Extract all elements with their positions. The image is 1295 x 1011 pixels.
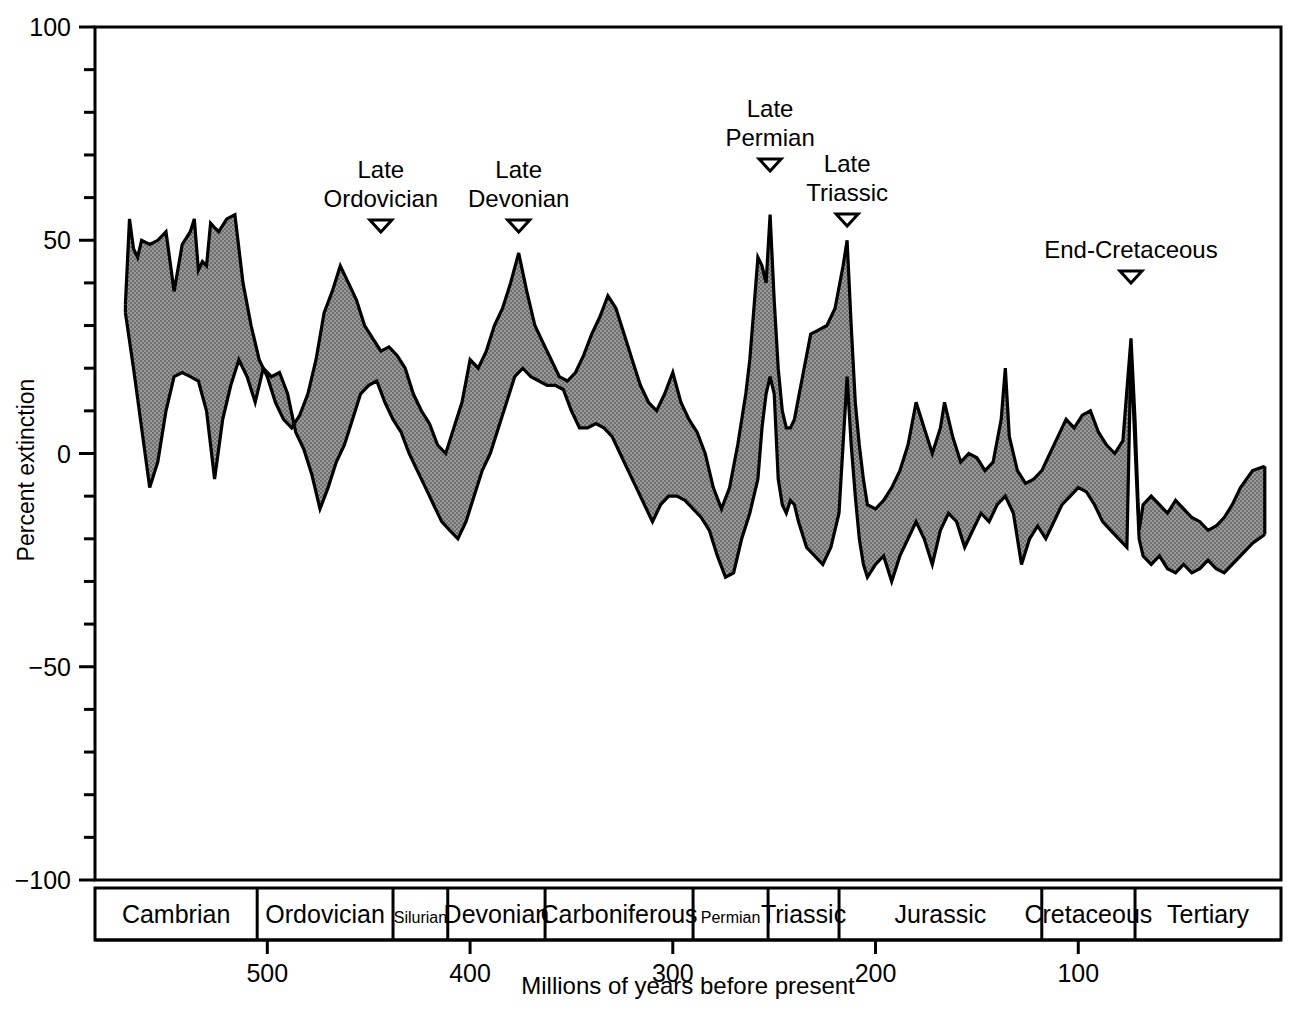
event-label: Ordovician — [323, 185, 438, 212]
period-label: Jurassic — [895, 900, 987, 928]
extinction-chart-figure: −100−50050100 Percent extinction LateOrd… — [0, 0, 1295, 1011]
event-label: End-Cretaceous — [1044, 236, 1217, 263]
event-label: Late — [357, 156, 404, 183]
period-label: Cretaceous — [1024, 900, 1152, 928]
event-marker-down-triangle-icon — [1120, 271, 1142, 283]
extinction-band — [125, 215, 1264, 582]
event-marker-down-triangle-icon — [370, 220, 392, 232]
x-tick-label: 400 — [449, 959, 491, 987]
x-axis-title: Millions of years before present — [521, 972, 855, 999]
y-tick-label: 0 — [57, 440, 71, 468]
x-axis-ticks — [95, 940, 1281, 954]
period-label: Ordovician — [265, 900, 385, 928]
period-label: Permian — [701, 909, 761, 926]
x-tick-label: 100 — [1057, 959, 1099, 987]
period-label: Carboniferous — [541, 900, 698, 928]
y-tick-label: −50 — [29, 653, 71, 681]
period-label: Cambrian — [122, 900, 230, 928]
y-axis-ticks — [79, 27, 95, 880]
y-tick-label: 50 — [43, 226, 71, 254]
event-label: Triassic — [806, 179, 888, 206]
event-label: Late — [824, 150, 871, 177]
event-label: Permian — [725, 124, 814, 151]
event-label: Late — [747, 95, 794, 122]
event-marker-down-triangle-icon — [759, 159, 781, 171]
period-label: Silurian — [394, 909, 447, 926]
y-tick-label: 100 — [29, 13, 71, 41]
y-axis-title: Percent extinction — [13, 379, 39, 562]
event-label: Late — [495, 156, 542, 183]
x-tick-label: 200 — [855, 959, 897, 987]
period-label: Devonian — [444, 900, 550, 928]
geologic-period-bar: CambrianOrdovicianSilurianDevonianCarbon… — [95, 888, 1281, 940]
event-marker-down-triangle-icon — [508, 220, 530, 232]
event-marker-down-triangle-icon — [836, 214, 858, 226]
x-tick-label: 500 — [246, 959, 288, 987]
y-tick-label: −100 — [15, 866, 71, 894]
period-label: Tertiary — [1167, 900, 1249, 928]
event-label: Devonian — [468, 185, 569, 212]
percent-extinction-chart: −100−50050100 Percent extinction LateOrd… — [0, 0, 1295, 1011]
band-fill — [125, 215, 1264, 582]
period-label: Triassic — [761, 900, 846, 928]
